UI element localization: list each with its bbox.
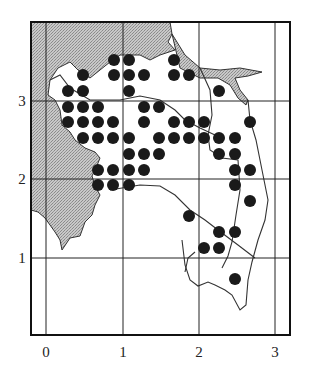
- y-tick-1: 1: [18, 250, 26, 266]
- x-tick-1: 1: [119, 344, 127, 360]
- x-tick-0: 0: [42, 344, 50, 360]
- y-tick-2: 2: [18, 171, 26, 187]
- sea-area: [31, 22, 262, 250]
- distribution-map: 0 1 2 3 1 2 3: [0, 0, 310, 377]
- x-tick-2: 2: [195, 344, 203, 360]
- x-tick-3: 3: [271, 344, 279, 360]
- grid-lines: [31, 22, 290, 335]
- y-tick-3: 3: [18, 93, 26, 109]
